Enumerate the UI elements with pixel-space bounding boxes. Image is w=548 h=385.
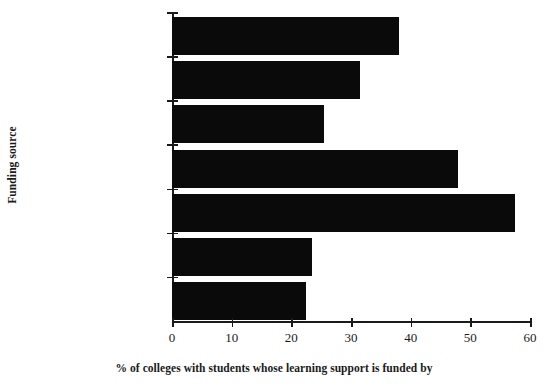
x-axis-tick	[291, 318, 293, 327]
bar-chart: Funding source TECSocial ServicesOtherLE…	[0, 0, 548, 385]
x-axis-tick-label: 0	[152, 330, 192, 346]
x-axis-tick	[470, 318, 472, 327]
x-axis-tick-label: 30	[331, 330, 371, 346]
x-axis-title: % of colleges with students whose learni…	[0, 362, 548, 374]
bar	[172, 150, 458, 188]
x-axis-tick	[351, 318, 353, 327]
x-axis-tick-label: 40	[391, 330, 431, 346]
x-axis-tick	[172, 318, 174, 327]
x-axis-tick	[232, 318, 234, 327]
bar	[172, 194, 515, 232]
x-axis-tick	[411, 318, 413, 327]
y-axis-tick	[167, 277, 178, 279]
bar	[172, 17, 399, 55]
y-axis-tick	[167, 100, 178, 102]
y-axis-title-text: Funding source	[6, 126, 18, 204]
y-axis-title: Funding source	[0, 0, 24, 330]
x-axis-tick-label: 50	[450, 330, 490, 346]
y-axis-tick	[167, 12, 178, 14]
y-axis-tick	[167, 189, 178, 191]
y-axis-tick	[167, 56, 178, 58]
bar	[172, 105, 324, 143]
bar	[172, 282, 306, 320]
x-axis-tick-label: 10	[212, 330, 252, 346]
plot-area: TECSocial ServicesOtherLEAInternal insti…	[172, 12, 530, 321]
x-axis-tick	[530, 318, 532, 327]
x-axis-tick-label: 60	[510, 330, 548, 346]
y-axis-tick	[167, 233, 178, 235]
x-axis-tick-label: 20	[271, 330, 311, 346]
bar	[172, 238, 312, 276]
y-axis-tick	[167, 144, 178, 146]
bar	[172, 61, 360, 99]
